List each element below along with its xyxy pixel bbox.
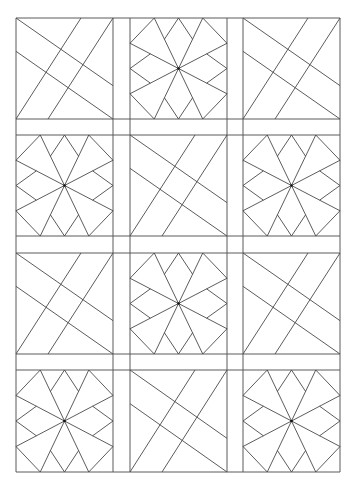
diagonal-line (243, 286, 340, 354)
quilt-block-star (130, 253, 227, 354)
edge-kite-edge (50, 451, 64, 472)
edge-kite-edge (130, 54, 150, 69)
star-spoke (267, 421, 291, 472)
star-spoke (154, 304, 178, 355)
diagonal-line (16, 286, 113, 354)
corner-kite-edge (89, 370, 113, 396)
edge-kite-edge (277, 451, 291, 472)
corner-kite-edge (316, 135, 340, 160)
star-spoke (65, 160, 114, 185)
quilt-block-star (243, 135, 340, 236)
star-center-dot (177, 67, 180, 70)
corner-kite-edge (316, 447, 340, 473)
star-spoke (292, 186, 316, 237)
star-spoke (40, 421, 64, 472)
corner-kite-edge (89, 211, 113, 236)
edge-kite-edge (292, 215, 306, 236)
star-center-dot (177, 302, 180, 305)
star-spoke (130, 43, 179, 68)
edge-kite-edge (93, 186, 113, 201)
diagonal-line (130, 370, 227, 438)
star-center-dot (290, 420, 293, 423)
star-spoke (40, 186, 64, 237)
quilt-block-diagonal (16, 18, 113, 119)
diagonal-line (275, 18, 340, 119)
star-spoke (243, 186, 292, 211)
star-spoke (292, 421, 341, 447)
quilt-block-diagonal (243, 18, 340, 119)
quilt-block-star (16, 370, 113, 472)
star-spoke (40, 370, 64, 421)
corner-kite-edge (89, 447, 113, 473)
quilt-diagram (0, 0, 356, 502)
edge-kite-edge (207, 289, 227, 304)
diagonal-line (16, 18, 81, 119)
corner-kite-edge (130, 94, 154, 119)
edge-kite-edge (130, 69, 150, 84)
quilt-block-star (243, 370, 340, 472)
edge-kite-edge (179, 98, 193, 119)
edge-kite-edge (130, 289, 150, 304)
edge-kite-edge (277, 135, 291, 156)
edge-kite-edge (320, 171, 340, 186)
edge-kite-edge (65, 215, 79, 236)
star-spoke (179, 69, 228, 94)
star-spoke (16, 421, 65, 447)
diagonal-line (162, 135, 227, 236)
star-spoke (65, 396, 114, 422)
star-spoke (16, 186, 65, 211)
edge-kite-edge (243, 406, 263, 421)
edge-kite-edge (50, 370, 64, 391)
star-spoke (16, 160, 65, 185)
star-spoke (65, 421, 114, 447)
edge-kite-edge (164, 18, 178, 39)
edge-kite-edge (16, 171, 36, 186)
star-spoke (65, 421, 89, 472)
edge-kite-edge (164, 333, 178, 354)
star-spoke (179, 304, 203, 355)
corner-kite-edge (130, 18, 154, 43)
corner-kite-edge (16, 211, 40, 236)
corner-kite-edge (16, 135, 40, 160)
corner-kite-edge (243, 447, 267, 473)
edge-kite-edge (164, 98, 178, 119)
star-spoke (40, 135, 64, 186)
edge-kite-edge (93, 406, 113, 421)
quilt-blocks (16, 18, 340, 472)
star-spoke (267, 135, 291, 186)
edge-kite-edge (320, 186, 340, 201)
star-spoke (154, 253, 178, 304)
quilt-block-diagonal (243, 253, 340, 354)
edge-kite-edge (243, 421, 263, 436)
corner-kite-edge (316, 370, 340, 396)
quilt-block-diagonal (16, 253, 113, 354)
star-spoke (65, 186, 114, 211)
diagonal-line (130, 135, 227, 203)
corner-kite-edge (316, 211, 340, 236)
star-spoke (243, 160, 292, 185)
edge-kite-edge (164, 253, 178, 274)
diagonal-line (16, 253, 113, 321)
corner-kite-edge (130, 253, 154, 278)
corner-kite-edge (203, 253, 227, 278)
diagonal-line (275, 253, 340, 354)
edge-kite-edge (93, 171, 113, 186)
diagonal-line (48, 253, 113, 354)
corner-kite-edge (89, 135, 113, 160)
edge-kite-edge (65, 451, 79, 472)
corner-kite-edge (130, 329, 154, 354)
edge-kite-edge (16, 406, 36, 421)
star-spoke (65, 186, 89, 237)
diagonal-line (16, 51, 113, 119)
edge-kite-edge (243, 171, 263, 186)
corner-kite-edge (203, 94, 227, 119)
edge-kite-edge (292, 451, 306, 472)
star-center-dot (290, 184, 293, 187)
star-spoke (292, 421, 316, 472)
star-spoke (292, 135, 316, 186)
edge-kite-edge (243, 186, 263, 201)
star-spoke (292, 370, 316, 421)
edge-kite-edge (65, 370, 79, 391)
diagonal-line (243, 253, 340, 321)
star-spoke (130, 69, 179, 94)
